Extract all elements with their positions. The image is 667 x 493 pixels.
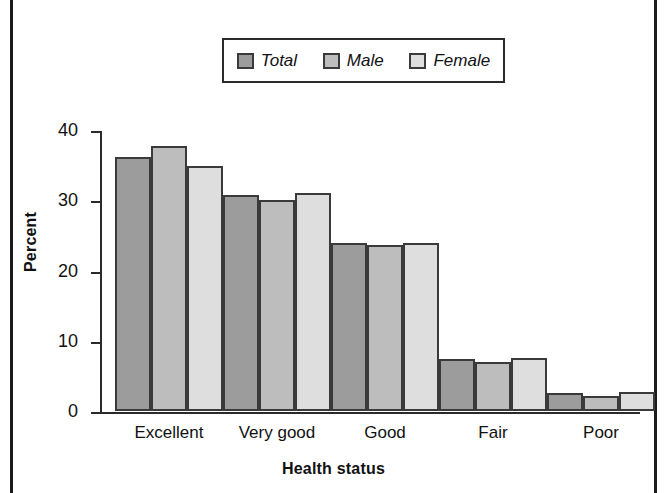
bar-poor-total (547, 393, 583, 411)
legend-entry-male[interactable]: Male (323, 51, 384, 71)
x-axis-line (100, 412, 640, 414)
y-axis-title: Percent (22, 212, 40, 272)
x-axis-label-fair: Fair (478, 423, 507, 443)
bar-poor-female (619, 392, 655, 411)
x-axis-title: Health status (0, 460, 667, 478)
legend-swatch-icon (323, 53, 340, 69)
frame-left-rule (10, 0, 13, 493)
y-tick-mark: 30 (91, 201, 100, 203)
bar-excellent-male (151, 146, 187, 411)
bar-very-good-female (295, 193, 331, 411)
bar-very-good-male (259, 200, 295, 411)
bar-fair-female (511, 358, 547, 411)
plot-area: 010203040 ExcellentVery goodGoodFairPoor (100, 131, 640, 413)
y-tick-mark: 0 (91, 412, 100, 414)
x-axis-label-poor: Poor (583, 423, 619, 443)
bar-very-good-total (223, 195, 259, 411)
bar-good-male (367, 245, 403, 411)
frame-right-rule (654, 0, 657, 493)
chart-figure: TotalMaleFemale 010203040 ExcellentVery … (0, 0, 667, 493)
bar-fair-total (439, 359, 475, 411)
y-tick-label: 30 (58, 190, 78, 211)
bar-excellent-total (115, 157, 151, 411)
y-tick-label: 10 (58, 331, 78, 352)
bar-good-female (403, 243, 439, 411)
legend-swatch-icon (237, 53, 254, 69)
y-tick-mark: 20 (91, 272, 100, 274)
x-axis-label-very-good: Very good (239, 423, 316, 443)
x-axis-label-excellent: Excellent (135, 423, 204, 443)
y-tick-label: 20 (58, 261, 78, 282)
bar-poor-male (583, 396, 619, 411)
bar-excellent-female (187, 166, 223, 411)
legend-label: Female (433, 51, 490, 71)
chart-legend: TotalMaleFemale (222, 38, 505, 83)
legend-entry-total[interactable]: Total (237, 51, 297, 71)
x-axis-label-good: Good (364, 423, 406, 443)
legend-label: Male (347, 51, 384, 71)
y-tick-mark: 40 (91, 131, 100, 133)
legend-label: Total (261, 51, 297, 71)
y-axis-line (100, 131, 102, 414)
y-tick-label: 0 (68, 401, 78, 422)
legend-swatch-icon (409, 53, 426, 69)
bar-fair-male (475, 362, 511, 411)
legend-entry-female[interactable]: Female (409, 51, 490, 71)
bar-good-total (331, 243, 367, 411)
y-tick-label: 40 (58, 120, 78, 141)
y-tick-mark: 10 (91, 342, 100, 344)
